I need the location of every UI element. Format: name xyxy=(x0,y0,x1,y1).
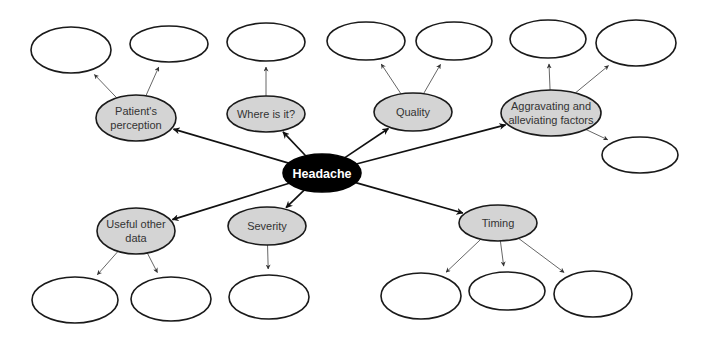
empty-child-node xyxy=(229,275,309,319)
edge-aggravating-alleviating-to-child xyxy=(586,129,608,139)
edge-root-to-quality xyxy=(345,128,388,157)
edge-aggravating-alleviating-to-child xyxy=(575,66,608,93)
category-node-severity: Severity xyxy=(228,207,306,245)
empty-child-node xyxy=(416,22,492,60)
edge-timing-to-child xyxy=(446,239,481,272)
edge-root-to-patients-perception xyxy=(173,129,288,163)
headache-mind-map: Patient'sperceptionWhere is it?QualityAg… xyxy=(0,0,707,350)
category-label-line: data xyxy=(125,232,147,244)
category-label-line: perception xyxy=(110,119,161,131)
edge-root-to-aggravating-alleviating xyxy=(356,125,505,164)
category-node-shape xyxy=(97,208,175,254)
empty-child-node xyxy=(602,137,678,173)
category-node-where-is-it: Where is it? xyxy=(227,96,305,132)
edge-root-to-timing xyxy=(356,183,463,213)
category-node-shape xyxy=(96,95,176,141)
edge-useful-other-data-to-child xyxy=(97,251,118,274)
edge-useful-other-data-to-child xyxy=(147,253,157,272)
category-label-line: Useful other xyxy=(106,218,166,230)
nodes-layer: Patient'sperceptionWhere is it?QualityAg… xyxy=(31,20,678,323)
category-label-line: Timing xyxy=(482,217,515,229)
category-label-line: Aggravating and xyxy=(511,100,591,112)
root-node-label: Headache xyxy=(292,167,351,181)
category-node-shape xyxy=(501,90,601,136)
category-label-line: Severity xyxy=(247,220,287,232)
edge-timing-to-child xyxy=(518,238,564,272)
empty-child-node xyxy=(554,271,632,317)
edge-patients-perception-to-child xyxy=(146,67,159,96)
root-node-headache: Headache xyxy=(283,154,361,192)
empty-child-node xyxy=(32,277,118,323)
category-label-line: Patient's xyxy=(115,105,157,117)
empty-child-node xyxy=(131,277,211,321)
edge-aggravating-alleviating-to-child xyxy=(549,64,550,90)
empty-child-node xyxy=(596,20,676,66)
edge-root-to-severity xyxy=(286,190,304,208)
empty-child-node xyxy=(469,272,545,310)
empty-child-node xyxy=(510,20,586,58)
category-label-line: Quality xyxy=(396,106,431,118)
empty-child-node xyxy=(381,273,461,319)
empty-child-node xyxy=(227,23,305,61)
category-node-aggravating-alleviating: Aggravating andalleviating factors xyxy=(501,90,601,136)
category-node-useful-other-data: Useful otherdata xyxy=(97,208,175,254)
edge-root-to-where-is-it xyxy=(283,132,306,156)
empty-child-node xyxy=(327,22,405,60)
edge-patients-perception-to-child xyxy=(94,74,116,97)
edge-timing-to-child xyxy=(500,241,503,266)
edge-quality-to-child xyxy=(424,64,441,93)
category-node-patients-perception: Patient'sperception xyxy=(96,95,176,141)
empty-child-node xyxy=(31,27,111,73)
edge-severity-to-child xyxy=(268,245,269,269)
category-node-timing: Timing xyxy=(459,205,537,241)
empty-child-node xyxy=(130,26,208,62)
category-label-line: Where is it? xyxy=(237,108,295,120)
category-label-line: alleviating factors xyxy=(509,114,594,126)
edge-quality-to-child xyxy=(381,64,401,94)
category-node-quality: Quality xyxy=(374,93,452,131)
